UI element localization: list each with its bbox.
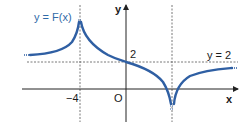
curve-left-branch: [30, 22, 79, 55]
x-tick-minus4: −4: [66, 93, 79, 104]
asymptote-label: y = 2: [207, 50, 231, 61]
y-tick-2: 2: [130, 49, 136, 60]
y-axis-label: y: [115, 4, 121, 15]
curve-right-branch: [174, 68, 232, 104]
origin-label: O: [114, 93, 123, 104]
function-label: y = F(x): [34, 12, 72, 23]
x-axis-label: x: [226, 94, 232, 105]
